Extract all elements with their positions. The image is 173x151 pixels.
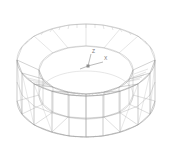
z-axis-line (88, 54, 91, 66)
wireframe-model-canvas[interactable]: Z X (0, 0, 173, 151)
mesh-top-hatch-fans (28, 69, 148, 96)
mesh-bore-wall (39, 70, 133, 119)
axis-label-x: X (104, 55, 108, 61)
x-axis-line (88, 62, 103, 66)
model-viewport[interactable]: Z X (0, 0, 173, 151)
mesh-top-face-back (34, 24, 138, 53)
mesh-bottom-rim-hatch (41, 125, 137, 137)
axis-label-z: Z (92, 48, 95, 54)
coordinate-axis-triad: Z X (80, 48, 108, 69)
axis-origin-marker (87, 65, 90, 68)
